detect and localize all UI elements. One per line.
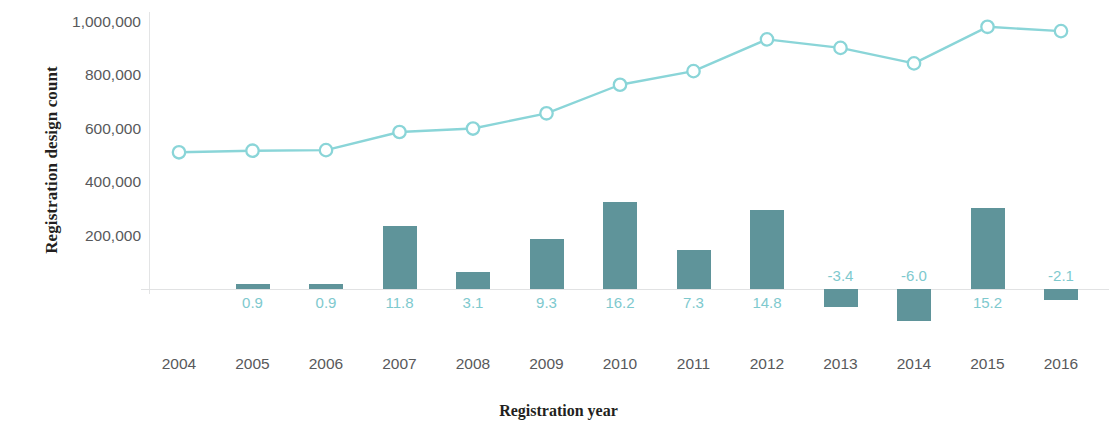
y-axis-tick-label: 600,000: [41, 120, 141, 138]
y-axis-tick-label: 1,000,000: [41, 13, 141, 31]
y-axis-tick-label: 200,000: [41, 227, 141, 245]
y-axis-tick-label: 800,000: [41, 66, 141, 84]
x-axis-tick-label: 2016: [1016, 355, 1106, 373]
y-axis-tick-labels: 200,000400,000600,000800,0001,000,000: [40, 0, 141, 428]
chart-container: Registration design count 200,000400,000…: [0, 0, 1117, 428]
y-axis-tick-label: 400,000: [41, 173, 141, 191]
x-axis-tick-labels: 2004200520062007200820092010201120122013…: [149, 0, 1109, 428]
x-axis-title: Registration year: [0, 402, 1117, 420]
